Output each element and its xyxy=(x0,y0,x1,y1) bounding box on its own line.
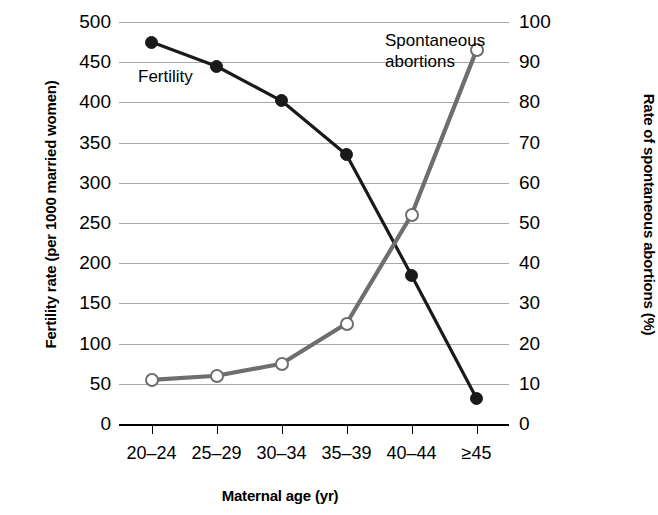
data-point-marker xyxy=(405,269,418,282)
spontaneous-abortions-series-label: Spontaneous abortions xyxy=(385,30,485,72)
spontaneous-abortions-label-line1: Spontaneous xyxy=(385,30,485,51)
y-axis-left-tick-label: 500 xyxy=(41,12,111,31)
fertility-series-label: Fertility xyxy=(138,66,193,87)
x-axis-tick-mark xyxy=(347,426,348,434)
x-axis-line xyxy=(119,424,509,426)
y-axis-left-tick-label: 50 xyxy=(41,374,111,393)
y-axis-right-tick-label: 50 xyxy=(519,213,589,232)
y-axis-right-tick-label: 90 xyxy=(519,52,589,71)
data-point-marker xyxy=(340,317,354,331)
data-point-marker xyxy=(210,369,224,383)
y-axis-right-title: Rate of spontaneous abortions (%) xyxy=(641,15,658,415)
y-axis-left-tick-label: 100 xyxy=(41,334,111,353)
x-axis-tick-label: ≥45 xyxy=(444,443,509,464)
data-point-marker xyxy=(145,36,158,49)
y-axis-left-tick-label: 300 xyxy=(41,173,111,192)
y-axis-right-tick-label: 40 xyxy=(519,253,589,272)
y-axis-right-tick-label: 70 xyxy=(519,133,589,152)
spontaneous-abortions-line xyxy=(152,50,477,380)
x-axis-tick-mark xyxy=(477,426,478,434)
x-axis-tick-mark xyxy=(152,426,153,434)
y-axis-right-tick-label: 100 xyxy=(519,12,589,31)
y-axis-left-tick-label: 250 xyxy=(41,213,111,232)
data-point-marker xyxy=(145,373,159,387)
x-axis-title: Maternal age (yr) xyxy=(0,487,560,504)
x-axis-tick-label: 40–44 xyxy=(379,443,444,464)
y-axis-left-tick-label: 400 xyxy=(41,92,111,111)
x-axis-tick-mark xyxy=(282,426,283,434)
y-axis-right-tick-label: 10 xyxy=(519,374,589,393)
data-point-marker xyxy=(210,60,223,73)
y-axis-left-tick-label: 150 xyxy=(41,293,111,312)
y-axis-left-tick-label: 200 xyxy=(41,253,111,272)
y-axis-right-tick-label: 20 xyxy=(519,334,589,353)
x-axis-tick-label: 35–39 xyxy=(314,443,379,464)
y-axis-right-tick-label: 80 xyxy=(519,92,589,111)
data-point-marker xyxy=(470,392,483,405)
y-axis-right-tick-label: 30 xyxy=(519,293,589,312)
y-axis-left-tick-label: 450 xyxy=(41,52,111,71)
y-axis-left-tick-label: 0 xyxy=(41,414,111,433)
y-axis-right-tick-label: 0 xyxy=(519,414,589,433)
y-axis-right-tick-label: 60 xyxy=(519,173,589,192)
data-point-marker xyxy=(405,208,419,222)
x-axis-tick-label: 25–29 xyxy=(184,443,249,464)
x-axis-tick-label: 20–24 xyxy=(119,443,184,464)
spontaneous-abortions-label-line2: abortions xyxy=(385,51,485,72)
x-axis-tick-label: 30–34 xyxy=(249,443,314,464)
y-axis-left-tick-label: 350 xyxy=(41,133,111,152)
data-point-marker xyxy=(275,357,289,371)
x-axis-tick-mark xyxy=(217,426,218,434)
x-axis-tick-mark xyxy=(412,426,413,434)
